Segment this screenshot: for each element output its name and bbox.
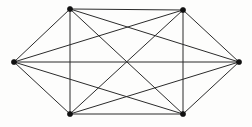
graph-canvas	[0, 0, 252, 127]
diagram-background	[0, 0, 252, 127]
graph-vertex-dot	[11, 59, 16, 64]
graph-vertex-dot	[180, 7, 185, 12]
graph-diagram	[0, 0, 252, 127]
graph-vertex-dot	[180, 111, 185, 116]
graph-vertex-dot	[236, 59, 241, 64]
graph-vertex-dot	[67, 6, 72, 11]
graph-vertex-dot	[67, 111, 72, 116]
